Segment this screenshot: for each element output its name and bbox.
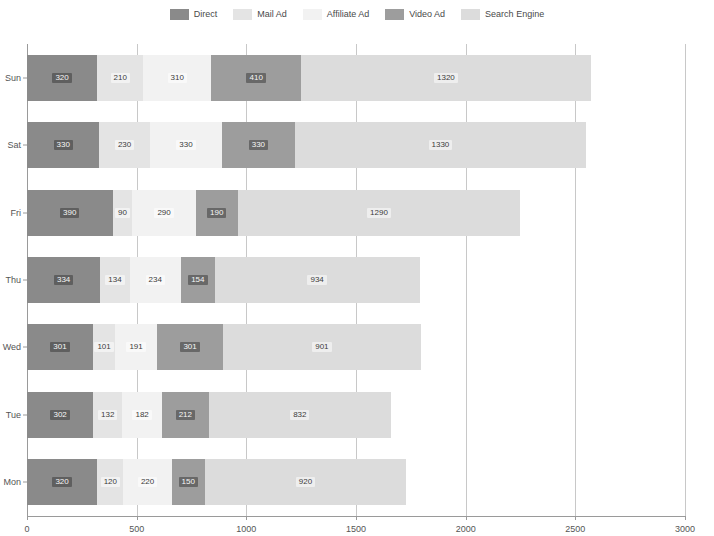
legend-item-video-ad[interactable]: Video Ad — [385, 9, 445, 20]
x-tick-mark — [246, 516, 247, 520]
y-tick-label-fri: Fri — [11, 208, 22, 218]
y-tick-label-wed: Wed — [3, 342, 21, 352]
bar-segment-mon-affiliate-ad[interactable]: 220 — [123, 459, 171, 505]
legend-swatch-icon — [385, 9, 404, 20]
bar-row-sun: 3202103104101320 — [27, 55, 591, 101]
bar-value-label: 330 — [176, 140, 195, 150]
bar-segment-sun-search-engine[interactable]: 1320 — [301, 55, 591, 101]
bar-segment-sat-mail-ad[interactable]: 230 — [99, 122, 149, 168]
bar-row-thu: 334134234154934 — [27, 257, 420, 303]
bar-value-label: 920 — [296, 477, 315, 487]
plot-area: 3202103104101320330230330330133039090290… — [27, 44, 685, 516]
bar-segment-sun-direct[interactable]: 320 — [27, 55, 97, 101]
bar-segment-mon-direct[interactable]: 320 — [27, 459, 97, 505]
bar-segment-thu-affiliate-ad[interactable]: 234 — [130, 257, 181, 303]
bar-value-label: 120 — [101, 477, 120, 487]
bar-row-fri: 390902901901290 — [27, 190, 520, 236]
bar-segment-fri-search-engine[interactable]: 1290 — [238, 190, 521, 236]
bar-segment-tue-affiliate-ad[interactable]: 182 — [122, 392, 162, 438]
bar-segment-wed-affiliate-ad[interactable]: 191 — [115, 324, 157, 370]
y-tick-label-sun: Sun — [5, 73, 21, 83]
bar-value-label: 182 — [132, 410, 151, 420]
bar-segment-fri-direct[interactable]: 390 — [27, 190, 113, 236]
bar-segment-wed-direct[interactable]: 301 — [27, 324, 93, 370]
bar-segment-sat-search-engine[interactable]: 1330 — [295, 122, 587, 168]
bar-value-label: 90 — [115, 208, 130, 218]
bar-segment-sun-video-ad[interactable]: 410 — [211, 55, 301, 101]
x-tick-mark — [27, 516, 28, 520]
bar-segment-mon-mail-ad[interactable]: 120 — [97, 459, 123, 505]
x-tick-mark — [137, 516, 138, 520]
legend-label: Affiliate Ad — [327, 10, 369, 19]
bar-value-label: 220 — [138, 477, 157, 487]
x-tick-label: 1000 — [236, 524, 256, 534]
bar-value-label: 302 — [50, 410, 69, 420]
bar-value-label: 901 — [312, 342, 331, 352]
legend-item-search-engine[interactable]: Search Engine — [461, 9, 544, 20]
bar-segment-tue-direct[interactable]: 302 — [27, 392, 93, 438]
bar-value-label: 134 — [105, 275, 124, 285]
bar-value-label: 132 — [98, 410, 117, 420]
bar-value-label: 210 — [111, 73, 130, 83]
legend-item-affiliate-ad[interactable]: Affiliate Ad — [303, 9, 369, 20]
bar-segment-mon-video-ad[interactable]: 150 — [172, 459, 205, 505]
bar-segment-thu-search-engine[interactable]: 934 — [215, 257, 420, 303]
legend-swatch-icon — [170, 9, 189, 20]
bar-segment-tue-search-engine[interactable]: 832 — [209, 392, 391, 438]
legend-label: Mail Ad — [257, 10, 287, 19]
bar-segment-thu-direct[interactable]: 334 — [27, 257, 100, 303]
legend-item-mail-ad[interactable]: Mail Ad — [233, 9, 287, 20]
bar-segment-wed-video-ad[interactable]: 301 — [157, 324, 223, 370]
bar-segment-sun-mail-ad[interactable]: 210 — [97, 55, 143, 101]
bar-segment-sat-affiliate-ad[interactable]: 330 — [150, 122, 222, 168]
bar-value-label: 330 — [54, 140, 73, 150]
bar-segment-sat-video-ad[interactable]: 330 — [222, 122, 294, 168]
bar-segment-thu-video-ad[interactable]: 154 — [181, 257, 215, 303]
bar-value-label: 330 — [249, 140, 268, 150]
bar-value-label: 832 — [290, 410, 309, 420]
bar-row-tue: 302132182212832 — [27, 392, 391, 438]
legend-swatch-icon — [461, 9, 480, 20]
y-tick-label-tue: Tue — [6, 410, 21, 420]
bar-row-mon: 320120220150920 — [27, 459, 406, 505]
legend-item-direct[interactable]: Direct — [170, 9, 218, 20]
bar-segment-sat-direct[interactable]: 330 — [27, 122, 99, 168]
bar-segment-fri-mail-ad[interactable]: 90 — [113, 190, 133, 236]
bar-segment-mon-search-engine[interactable]: 920 — [205, 459, 407, 505]
bar-value-label: 320 — [52, 73, 71, 83]
bar-segment-fri-affiliate-ad[interactable]: 290 — [132, 190, 196, 236]
x-axis: 050010001500200025003000 — [27, 516, 685, 536]
bar-segment-sun-affiliate-ad[interactable]: 310 — [143, 55, 211, 101]
bar-value-label: 410 — [246, 73, 265, 83]
bar-value-label: 191 — [126, 342, 145, 352]
x-tick-label: 0 — [24, 524, 29, 534]
bar-value-label: 301 — [50, 342, 69, 352]
bar-value-label: 1320 — [434, 73, 458, 83]
bar-value-label: 334 — [54, 275, 73, 285]
bar-value-label: 1330 — [429, 140, 453, 150]
x-tick-label: 500 — [129, 524, 144, 534]
bar-value-label: 934 — [307, 275, 326, 285]
y-tick-label-thu: Thu — [5, 275, 21, 285]
bar-value-label: 154 — [188, 275, 207, 285]
bar-value-label: 320 — [52, 477, 71, 487]
x-tick-label: 2500 — [565, 524, 585, 534]
x-tick-mark — [685, 516, 686, 520]
x-tick-mark — [356, 516, 357, 520]
bar-segment-tue-video-ad[interactable]: 212 — [162, 392, 208, 438]
bar-value-label: 390 — [60, 208, 79, 218]
bar-segment-thu-mail-ad[interactable]: 134 — [100, 257, 129, 303]
bar-value-label: 310 — [168, 73, 187, 83]
bar-value-label: 290 — [154, 208, 173, 218]
legend-swatch-icon — [233, 9, 252, 20]
bar-value-label: 101 — [94, 342, 113, 352]
bar-segment-wed-search-engine[interactable]: 901 — [223, 324, 421, 370]
bar-segment-fri-video-ad[interactable]: 190 — [196, 190, 238, 236]
legend-label: Direct — [194, 10, 218, 19]
bar-value-label: 212 — [176, 410, 195, 420]
bar-row-sat: 3302303303301330 — [27, 122, 586, 168]
bar-segment-wed-mail-ad[interactable]: 101 — [93, 324, 115, 370]
x-tick-mark — [575, 516, 576, 520]
bar-segment-tue-mail-ad[interactable]: 132 — [93, 392, 122, 438]
x-tick-label: 1500 — [346, 524, 366, 534]
